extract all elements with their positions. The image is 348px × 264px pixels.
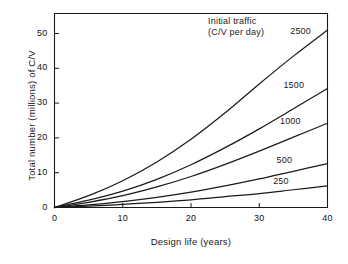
x-tick-label: 40 — [316, 213, 340, 223]
y-tick-label: 20 — [26, 132, 48, 142]
curve-label-1000: 1000 — [280, 116, 301, 126]
curve-label-250: 250 — [273, 176, 289, 186]
curve-label-2500: 2500 — [290, 26, 311, 36]
y-tick-label: 0 — [26, 202, 48, 212]
y-tick-label: 10 — [26, 167, 48, 177]
y-tick-label: 40 — [26, 62, 48, 72]
x-tick-label: 0 — [43, 213, 67, 223]
annotation-initial-traffic: Initial traffic — [208, 16, 256, 26]
x-axis-label: Design life (years) — [54, 236, 328, 247]
y-tick-label: 30 — [26, 97, 48, 107]
x-tick-label: 20 — [179, 213, 203, 223]
chart-figure: Total number (millions) of C/V Design li… — [0, 0, 348, 264]
plot-background — [0, 0, 348, 264]
y-tick-label: 50 — [26, 28, 48, 38]
x-tick-label: 30 — [247, 213, 271, 223]
annotation-units: (C/V per day) — [208, 27, 264, 37]
chart-plot-area — [0, 0, 348, 264]
curve-label-1500: 1500 — [283, 80, 304, 90]
curve-label-500: 500 — [277, 155, 293, 165]
x-tick-label: 10 — [111, 213, 135, 223]
